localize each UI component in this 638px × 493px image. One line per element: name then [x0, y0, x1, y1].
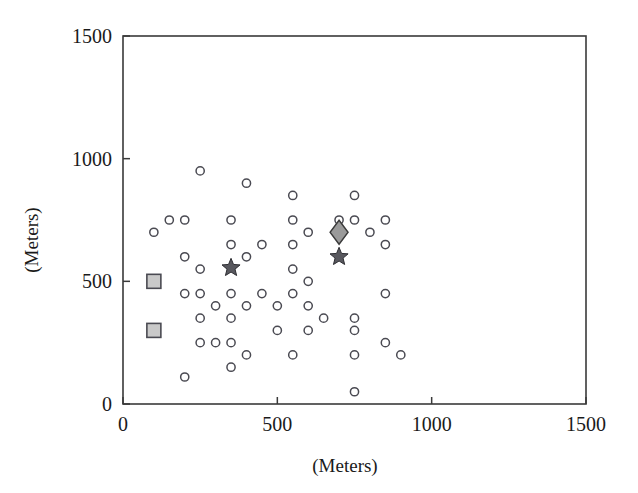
data-point-square [147, 274, 161, 288]
data-point-circle [381, 216, 389, 224]
data-point-circle [289, 216, 297, 224]
data-point-circle [212, 339, 220, 347]
data-point-circle [181, 253, 189, 261]
data-point-square [147, 323, 161, 337]
data-point-circle [304, 302, 312, 310]
y-tick-label: 0 [102, 393, 112, 415]
data-point-circle [289, 265, 297, 273]
x-axis-ticks: 050010001500 [118, 397, 606, 435]
y-axis-ticks: 050010001500 [72, 25, 130, 415]
data-point-star [222, 258, 240, 275]
data-point-circle [227, 314, 235, 322]
data-point-circle [304, 326, 312, 334]
data-point-circle [304, 277, 312, 285]
x-tick-label: 1500 [566, 413, 606, 435]
data-point-circle [196, 290, 204, 298]
plot-canvas: 050010001500 050010001500 (Meters) (Mete… [0, 0, 638, 493]
data-point-circle [212, 302, 220, 310]
data-point-circle [165, 216, 173, 224]
data-point-circle [397, 351, 405, 359]
data-point-circle [196, 339, 204, 347]
data-point-circle [381, 290, 389, 298]
y-tick-label: 500 [82, 270, 112, 292]
data-point-circle [181, 373, 189, 381]
data-point-circle [227, 290, 235, 298]
y-tick-label: 1000 [72, 148, 112, 170]
data-point-circle [242, 351, 250, 359]
data-point-circle [242, 253, 250, 261]
data-point-circle [273, 302, 281, 310]
data-point-circle [227, 363, 235, 371]
data-point-circle [289, 191, 297, 199]
data-point-circle [258, 290, 266, 298]
x-tick-label: 1000 [412, 413, 452, 435]
data-point-star [330, 247, 348, 264]
data-points-layer [147, 167, 405, 396]
data-point-circle [381, 240, 389, 248]
data-point-circle [350, 326, 358, 334]
data-point-circle [150, 228, 158, 236]
data-point-circle [181, 290, 189, 298]
data-point-circle [273, 326, 281, 334]
data-point-circle [227, 216, 235, 224]
y-axis-label: (Meters) [21, 207, 43, 272]
data-point-circle [320, 314, 328, 322]
data-point-circle [350, 216, 358, 224]
data-point-circle [196, 314, 204, 322]
data-point-circle [289, 240, 297, 248]
data-point-circle [242, 302, 250, 310]
data-point-circle [350, 351, 358, 359]
data-point-circle [242, 179, 250, 187]
data-point-circle [304, 228, 312, 236]
data-point-diamond [330, 220, 348, 244]
x-axis-label: (Meters) [312, 455, 377, 477]
data-point-circle [258, 240, 266, 248]
data-point-circle [227, 339, 235, 347]
data-point-circle [350, 191, 358, 199]
data-point-circle [289, 290, 297, 298]
x-tick-label: 0 [118, 413, 128, 435]
data-point-circle [350, 314, 358, 322]
data-point-circle [350, 388, 358, 396]
y-tick-label: 1500 [72, 25, 112, 47]
x-tick-label: 500 [262, 413, 292, 435]
data-point-circle [196, 167, 204, 175]
data-point-circle [381, 339, 389, 347]
data-point-circle [196, 265, 204, 273]
data-point-circle [181, 216, 189, 224]
data-point-circle [227, 240, 235, 248]
scatter-plot-figure: 050010001500 050010001500 (Meters) (Mete… [0, 0, 638, 493]
data-point-circle [366, 228, 374, 236]
data-point-circle [289, 351, 297, 359]
